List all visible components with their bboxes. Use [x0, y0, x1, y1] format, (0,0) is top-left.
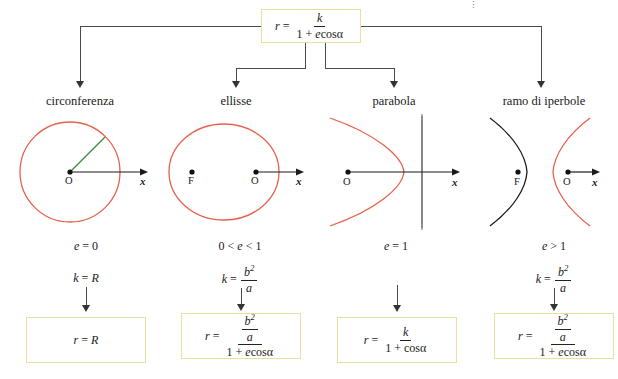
column-label-ramo-di-iperbole: ramo di iperbole — [474, 94, 614, 109]
hyperbola-origin-label: O — [563, 176, 571, 187]
eccentricity-ellisse: 0<e<1 — [170, 239, 310, 254]
circle-origin-dot — [67, 169, 72, 174]
circle-radius-segment — [70, 137, 105, 172]
arrowhead-result-parabola — [393, 305, 401, 312]
k-numerator-ellisse: b2 — [241, 264, 257, 281]
result-denominator-iperbole: 1 + ecosα — [537, 345, 589, 359]
result-numerator-ellisse: b2 a — [238, 313, 262, 345]
hyperbola-x-axis-arrowhead — [592, 168, 600, 175]
connector-result-circonferenza — [86, 287, 87, 307]
hyperbola-left-branch — [490, 118, 527, 226]
top-dotted-mark: ⋮ — [469, 0, 479, 10]
result-box-iperbole: r= b2 a 1 + ecosα — [494, 313, 614, 359]
connector-parabola-horizontal — [325, 68, 395, 69]
parabola-origin-dot — [345, 169, 350, 174]
circle-axis-label: x — [140, 175, 146, 187]
parabola-axis-label: x — [452, 176, 458, 188]
conic-sections-diagram: r = k 1 + ecosα ⋮ circonferenza ellisse … — [0, 0, 618, 379]
k-value-ellisse: k= b2 a — [170, 264, 310, 294]
figure-ramo-di-iperbole: F O x — [470, 114, 618, 230]
result-numerator-iperbole: b2 a — [551, 313, 575, 345]
ellipse-focus-label: F — [188, 175, 194, 186]
k-value-iperbole: k= b2 a — [484, 264, 618, 294]
column-label-circonferenza: circonferenza — [10, 94, 150, 109]
arrowhead-result-circonferenza — [82, 305, 90, 312]
connector-ellisse-horizontal — [236, 68, 306, 69]
eccentricity-circonferenza: e=0 — [16, 239, 156, 254]
root-formula: r = k 1 + ecosα — [275, 12, 347, 40]
result-box-ellisse: r= b2 a 1 + ecosα — [181, 313, 301, 359]
result-denominator-parabola: 1 + cosα — [382, 341, 429, 355]
k-fraction-ellisse: b2 a — [241, 264, 257, 294]
root-formula-equals: = — [283, 20, 290, 33]
arrowhead-ellisse — [232, 81, 240, 88]
result-formula-parabola: r= k 1 + cosα — [364, 326, 431, 354]
connector-right-vertical — [541, 26, 542, 83]
connector-left-vertical — [80, 26, 81, 83]
k-numerator-iperbole: b2 — [555, 264, 571, 281]
parabola-x-axis-arrowhead — [452, 168, 460, 175]
arrowhead-result-iperbole — [550, 304, 558, 311]
figure-parabola: O x — [324, 114, 476, 230]
ellipse-origin-label: O — [251, 175, 259, 186]
connector-ellisse-stem — [305, 43, 306, 68]
column-label-parabola: parabola — [324, 94, 464, 109]
result-box-circonferenza: r=R — [26, 317, 146, 363]
parabola-origin-label: O — [343, 176, 351, 187]
hyperbola-focus-dot — [515, 169, 520, 174]
k-denominator-ellisse: a — [243, 281, 255, 295]
figure-ellisse: F O x — [168, 116, 318, 228]
result-formula-circonferenza: r=R — [74, 334, 99, 347]
arrowhead-iperbole — [537, 81, 545, 88]
eccentricity-iperbole: e>1 — [484, 239, 618, 254]
arrowhead-result-ellisse — [237, 304, 245, 311]
k-value-circonferenza: k=R — [16, 268, 156, 286]
result-box-parabola: r= k 1 + cosα — [337, 317, 457, 363]
eccentricity-parabola: e=1 — [326, 239, 466, 254]
hyperbola-focus-label: F — [514, 176, 520, 187]
ellipse-focus-dot — [189, 169, 194, 174]
root-formula-denominator: 1 + ecosα — [294, 27, 346, 41]
root-formula-fraction: k 1 + ecosα — [294, 12, 346, 40]
arrowhead-parabola — [390, 81, 398, 88]
arrowhead-circonferenza — [76, 81, 84, 88]
circle-origin-label: O — [65, 175, 73, 186]
ellipse-origin-dot — [253, 169, 258, 174]
root-formula-box: r = k 1 + ecosα — [261, 9, 361, 43]
result-numerator-parabola: k — [400, 326, 411, 341]
hyperbola-axis-label: x — [592, 176, 598, 188]
result-formula-ellisse: r= b2 a 1 + ecosα — [205, 313, 277, 359]
column-label-ellisse: ellisse — [166, 94, 306, 109]
root-formula-numerator: k — [314, 12, 325, 27]
result-denominator-ellisse: 1 + ecosα — [224, 345, 276, 359]
figure-circonferenza: O x — [14, 116, 160, 228]
hyperbola-origin-dot — [565, 169, 570, 174]
connector-parabola-stem — [325, 43, 326, 68]
k-denominator-iperbole: a — [557, 281, 569, 295]
k-fraction-iperbole: b2 a — [555, 264, 571, 294]
result-formula-iperbole: r= b2 a 1 + ecosα — [518, 313, 590, 359]
connector-result-parabola — [397, 285, 398, 307]
connector-left-horizontal — [80, 26, 261, 27]
ellipse-axis-label: x — [296, 175, 302, 187]
root-formula-lhs: r — [275, 20, 280, 33]
connector-right-horizontal — [361, 26, 541, 27]
